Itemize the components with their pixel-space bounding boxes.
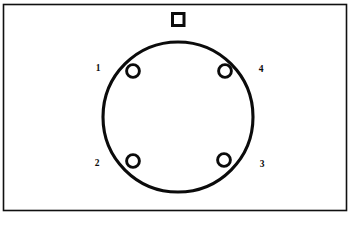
pin-hole-4 xyxy=(219,65,232,78)
pin-label-4: 4 xyxy=(259,64,264,74)
connector-body-outline xyxy=(103,42,253,192)
pin-label-2: 2 xyxy=(95,158,100,168)
keyway-notch xyxy=(173,14,185,26)
connector-face-diagram: 1 4 2 3 xyxy=(0,0,354,227)
pin-hole-1 xyxy=(127,65,140,78)
pin-hole-2 xyxy=(127,155,140,168)
figure-root: 1 4 2 3 xyxy=(0,0,354,227)
pin-hole-3 xyxy=(218,154,231,167)
pin-label-1: 1 xyxy=(96,63,101,73)
pin-label-3: 3 xyxy=(260,159,265,169)
